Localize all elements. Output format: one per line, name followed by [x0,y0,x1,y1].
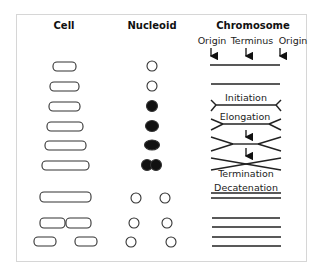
cell-shape-dividing [40,218,65,228]
cell-column [34,62,97,246]
cell-shape [50,82,79,91]
nucleoid-hollow [131,193,141,203]
nucleoid-hollow [126,237,136,247]
cell-shape [53,62,76,71]
nucleoid-hollow [147,61,157,71]
replication-fork-initiation [211,100,281,111]
replication-fork-elongation [211,119,281,130]
cell-shape [49,102,80,111]
cell-shape [47,122,83,131]
nucleoid-filled [146,121,159,132]
nucleoid-hollow [147,81,157,91]
nucleoid-filled-oval [145,140,160,150]
nucleoid-hollow [166,237,176,247]
cell-shape [45,141,86,150]
diagram-graphics [0,0,321,276]
replication-fork-termination [211,158,281,170]
nucleoid-hollow [162,218,172,228]
nucleoid-column [126,61,176,247]
cell-shape [40,192,91,202]
nucleoid-filled-double [151,160,162,171]
daughter-cell-shape [75,237,97,246]
nucleoid-hollow [160,193,170,203]
nucleoid-filled [147,101,158,112]
cell-shape-dividing [66,218,91,228]
cell-shape [42,161,89,170]
nucleoid-hollow [129,218,139,228]
chromosome-column [210,48,281,246]
daughter-cell-shape [34,237,56,246]
